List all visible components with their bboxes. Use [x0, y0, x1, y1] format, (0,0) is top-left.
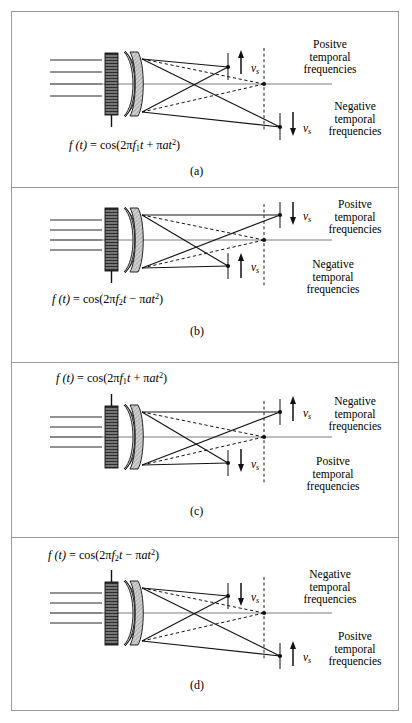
- positive-frequency-label-d: Positve temporal frequencies: [312, 630, 398, 668]
- vs-label-top-a: vs: [251, 62, 259, 76]
- formula-d: f (t) = cos(2πf2t − πat2): [48, 548, 159, 563]
- input-rays-d: [50, 593, 102, 623]
- negative-frequency-label-d: Negative temporal frequencies: [268, 568, 392, 606]
- spot-marker-top-b: [278, 202, 296, 228]
- panel-d: vs vs Negative temporal frequencies Posi…: [12, 538, 398, 710]
- spot-marker-bottom-c: [226, 449, 244, 476]
- panel-caption-c: (c): [190, 504, 203, 519]
- diffracted-rays-d: [142, 588, 280, 656]
- panel-b: vs vs Positve temporal frequencies Negat…: [12, 188, 398, 363]
- optical-diagram-d: [12, 538, 398, 710]
- freq-line1: Negative: [312, 100, 398, 113]
- panel-c: vs vs Negative temporal frequencies Posi…: [12, 363, 398, 538]
- freq-line3: frequencies: [312, 125, 398, 138]
- axial-spot-d: [262, 611, 266, 615]
- vs-label-top-b: vs: [303, 210, 311, 224]
- axial-spot-b: [262, 238, 266, 242]
- diffracted-rays-b: [142, 215, 280, 268]
- negative-frequency-label-a: Negative temporal frequencies: [312, 100, 398, 138]
- vs-label-bottom-a: vs: [303, 122, 311, 136]
- input-rays-a: [50, 60, 102, 96]
- freq-line3: frequencies: [268, 63, 392, 76]
- freq-line1: Positve: [312, 198, 398, 211]
- diffracted-rays-a: [142, 59, 280, 127]
- dashed-rays-c: [142, 412, 264, 465]
- formula-a: f (t) = cos(2πf1t + πat2): [69, 138, 180, 153]
- transducer-b: [105, 208, 118, 283]
- formula-c: f (t) = cos(2πf1t + πat2): [56, 371, 167, 386]
- input-rays-c: [50, 417, 102, 447]
- freq-line2: temporal: [312, 643, 398, 656]
- panel-d-diagram: vs vs Negative temporal frequencies Posi…: [12, 538, 398, 710]
- freq-line3: frequencies: [312, 420, 398, 433]
- spot-marker-bottom-a: [278, 112, 296, 140]
- panel-caption-d: (d): [190, 678, 204, 693]
- freq-line2: temporal: [274, 271, 392, 284]
- freq-line3: frequencies: [274, 480, 392, 493]
- panel-a: vs vs Positve temporal frequencies Negat…: [12, 12, 398, 188]
- freq-line2: temporal: [268, 51, 392, 64]
- freq-line2: temporal: [274, 468, 392, 481]
- negative-frequency-label-c: Negative temporal frequencies: [312, 395, 398, 433]
- spot-marker-top-a: [226, 50, 244, 80]
- dashed-rays-b: [142, 215, 264, 268]
- vs-label-bottom-b: vs: [251, 261, 259, 275]
- axial-spot-a: [262, 82, 266, 86]
- axial-spot-c: [262, 435, 266, 439]
- spot-marker-bottom-d: [278, 641, 296, 669]
- input-rays-b: [50, 220, 102, 250]
- dashed-rays-a: [142, 59, 264, 112]
- dashed-rays-d: [142, 588, 264, 641]
- transducer-d: [105, 570, 118, 645]
- spot-marker-bottom-b: [226, 253, 244, 279]
- figure-container: vs vs Positve temporal frequencies Negat…: [11, 11, 399, 711]
- panel-caption-a: (a): [190, 164, 203, 179]
- panel-a-diagram: vs vs Positve temporal frequencies Negat…: [12, 12, 398, 187]
- freq-line2: temporal: [268, 581, 392, 594]
- formula-b: f (t) = cos(2πf2t − πat2): [52, 292, 163, 307]
- transducer-a: [105, 53, 118, 127]
- freq-line3: frequencies: [268, 593, 392, 606]
- freq-line2: temporal: [312, 408, 398, 421]
- spot-marker-top-d: [226, 583, 244, 609]
- vs-label-top-c: vs: [303, 407, 311, 421]
- freq-line1: Negative: [274, 258, 392, 271]
- negative-frequency-label-b: Negative temporal frequencies: [274, 258, 392, 296]
- positive-frequency-label-a: Positve temporal frequencies: [268, 38, 392, 76]
- freq-line1: Positve: [312, 630, 398, 643]
- freq-line3: frequencies: [312, 655, 398, 668]
- panel-b-diagram: vs vs Positve temporal frequencies Negat…: [12, 188, 398, 362]
- transducer-c: [105, 394, 118, 468]
- panel-caption-b: (b): [190, 324, 204, 339]
- freq-line1: Positve: [274, 455, 392, 468]
- freq-line1: Negative: [268, 568, 392, 581]
- freq-line3: frequencies: [312, 223, 398, 236]
- positive-frequency-label-c: Positve temporal frequencies: [274, 455, 392, 493]
- freq-line1: Negative: [312, 395, 398, 408]
- vs-label-bottom-c: vs: [251, 458, 259, 472]
- positive-frequency-label-b: Positve temporal frequencies: [312, 198, 398, 236]
- freq-line2: temporal: [312, 211, 398, 224]
- freq-line1: Positve: [268, 38, 392, 51]
- spot-marker-top-c: [278, 396, 296, 425]
- diffracted-rays-c: [142, 412, 280, 465]
- optical-diagram-c: [12, 363, 398, 538]
- vs-label-bottom-d: vs: [303, 651, 311, 665]
- panel-c-diagram: vs vs Negative temporal frequencies Posi…: [12, 363, 398, 537]
- freq-line3: frequencies: [274, 283, 392, 296]
- vs-label-top-d: vs: [251, 591, 259, 605]
- freq-line2: temporal: [312, 113, 398, 126]
